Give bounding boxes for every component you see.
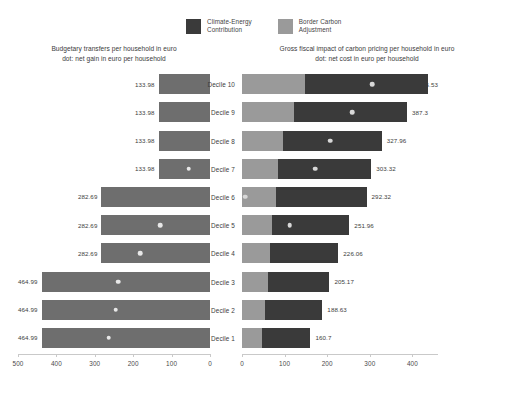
stacked-bar[interactable]: [242, 102, 407, 122]
net-cost-dot[interactable]: [243, 195, 248, 200]
bar[interactable]: [101, 243, 210, 263]
panel-title-right: Gross fiscal impact of carbon pricing pe…: [228, 44, 506, 63]
bar-total-label: 188.63: [327, 306, 347, 313]
stacked-bar[interactable]: [242, 131, 382, 151]
bar-segment-border-carbon-adjustment[interactable]: [242, 159, 278, 179]
bar-row[interactable]: 464.99: [18, 328, 210, 348]
bar[interactable]: [159, 131, 210, 151]
net-cost-dot[interactable]: [370, 82, 375, 87]
bar[interactable]: [42, 272, 210, 292]
axis-tick-label: 300: [364, 360, 375, 367]
stacked-bar[interactable]: [242, 300, 322, 320]
stacked-bar[interactable]: [242, 74, 413, 94]
bar-value-label: 133.98: [135, 109, 155, 116]
bar[interactable]: [159, 74, 210, 94]
bar-segment-climate-energy-contribution[interactable]: [305, 74, 428, 94]
bar-segment-climate-energy-contribution[interactable]: [278, 159, 371, 179]
bar-row[interactable]: Decile 2188.63: [242, 300, 438, 320]
bar[interactable]: [159, 159, 210, 179]
bar-row[interactable]: Decile 3205.17: [242, 272, 438, 292]
net-gain-dot[interactable]: [138, 251, 143, 256]
net-gain-dot[interactable]: [113, 307, 118, 312]
category-label: Decile 10: [207, 81, 235, 88]
net-gain-dot[interactable]: [116, 279, 121, 284]
bar-row[interactable]: Decile 6292.32: [242, 187, 438, 207]
bar-total-label: 387.3: [412, 109, 428, 116]
stacked-bar[interactable]: [242, 159, 371, 179]
bar-row[interactable]: 282.69: [18, 215, 210, 235]
bar-row[interactable]: 282.69: [18, 243, 210, 263]
category-label: Decile 3: [211, 278, 235, 285]
bar-segment-climate-energy-contribution[interactable]: [262, 328, 310, 348]
bar-row[interactable]: 464.99: [18, 300, 210, 320]
bar-value-label: 133.98: [135, 137, 155, 144]
bar-row[interactable]: 133.98: [18, 74, 210, 94]
axis-tick: [370, 354, 371, 357]
figure-root: Climate-Energy ContributionBorder Carbon…: [0, 0, 506, 407]
bar-segment-climate-energy-contribution[interactable]: [270, 243, 338, 263]
category-label: Decile 2: [211, 306, 235, 313]
bar-segment-border-carbon-adjustment[interactable]: [242, 131, 283, 151]
bar-row[interactable]: Decile 7303.32: [242, 159, 438, 179]
axis-tick: [327, 354, 328, 357]
bar-segment-border-carbon-adjustment[interactable]: [242, 300, 265, 320]
axis-line: [242, 354, 438, 355]
bar-value-label: 464.99: [18, 306, 38, 313]
net-cost-dot[interactable]: [350, 110, 355, 115]
bar-row[interactable]: Decile 10435.53: [242, 74, 438, 94]
axis-tick-label: 200: [128, 360, 139, 367]
stacked-bar[interactable]: [242, 187, 367, 207]
plot-area-left: 133.98133.98133.98133.98282.69282.69282.…: [18, 70, 210, 352]
net-gain-dot[interactable]: [106, 336, 111, 341]
bar-row[interactable]: 133.98: [18, 159, 210, 179]
axis-tick: [56, 354, 57, 357]
bar-segment-climate-energy-contribution[interactable]: [265, 300, 322, 320]
bar[interactable]: [101, 187, 210, 207]
net-gain-dot[interactable]: [186, 166, 191, 171]
bar-row[interactable]: Decile 9387.3: [242, 102, 438, 122]
bar-total-label: 327.96: [387, 137, 407, 144]
axis-tick-label: 0: [240, 360, 244, 367]
bar-row[interactable]: 133.98: [18, 131, 210, 151]
bar-total-label: 303.32: [376, 165, 396, 172]
axis-tick: [172, 354, 173, 357]
bar-value-label: 282.69: [78, 222, 98, 229]
bar-row[interactable]: 282.69: [18, 187, 210, 207]
net-gain-dot[interactable]: [158, 223, 163, 228]
category-label: Decile 9: [211, 109, 235, 116]
bar-segment-border-carbon-adjustment[interactable]: [242, 74, 305, 94]
bar-row[interactable]: Decile 1160.7: [242, 328, 438, 348]
bar-segment-border-carbon-adjustment[interactable]: [242, 102, 294, 122]
bar-row[interactable]: 464.99: [18, 272, 210, 292]
bar[interactable]: [42, 328, 210, 348]
axis-tick-label: 200: [322, 360, 333, 367]
axis-tick: [412, 354, 413, 357]
bar[interactable]: [159, 102, 210, 122]
bar-total-label: 292.32: [372, 193, 392, 200]
bar-segment-climate-energy-contribution[interactable]: [272, 215, 349, 235]
stacked-bar[interactable]: [242, 272, 329, 292]
bar[interactable]: [42, 300, 210, 320]
net-cost-dot[interactable]: [313, 166, 318, 171]
bar-row[interactable]: Decile 5251.96: [242, 215, 438, 235]
bar-segment-climate-energy-contribution[interactable]: [276, 187, 366, 207]
bar-segment-climate-energy-contribution[interactable]: [268, 272, 330, 292]
bar-segment-border-carbon-adjustment[interactable]: [242, 215, 272, 235]
stacked-bar[interactable]: [242, 243, 338, 263]
category-label: Decile 1: [211, 334, 235, 341]
bar-row[interactable]: Decile 8327.96: [242, 131, 438, 151]
stacked-bar[interactable]: [242, 328, 310, 348]
net-cost-dot[interactable]: [328, 138, 333, 143]
bar-segment-border-carbon-adjustment[interactable]: [242, 272, 268, 292]
bar-segment-border-carbon-adjustment[interactable]: [242, 243, 270, 263]
net-cost-dot[interactable]: [287, 223, 292, 228]
category-label: Decile 4: [211, 250, 235, 257]
bar-total-label: 160.7: [315, 334, 331, 341]
stacked-bar[interactable]: [242, 215, 349, 235]
bar-segment-border-carbon-adjustment[interactable]: [242, 328, 262, 348]
bar-total-label: 251.96: [354, 222, 374, 229]
bar-row[interactable]: Decile 4226.06: [242, 243, 438, 263]
category-label: Decile 5: [211, 222, 235, 229]
bar-row[interactable]: 133.98: [18, 102, 210, 122]
bar[interactable]: [101, 215, 210, 235]
